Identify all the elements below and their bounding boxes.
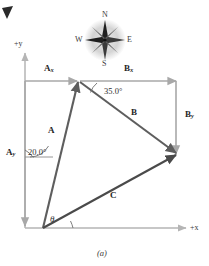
component-by-subscript: y: [191, 112, 194, 119]
vector-addition-figure: +y +x N S E W Ax Ay Bx By A B C 20.0° 35…: [0, 0, 209, 266]
compass-label-south: S: [102, 60, 106, 68]
compass-label-east: E: [127, 36, 132, 44]
y-axis-label: +y: [14, 40, 23, 48]
angle-theta-label: θ: [50, 215, 54, 224]
figure-caption: (a): [97, 249, 107, 258]
compass-label-west: W: [75, 36, 83, 44]
x-axis-label: +x: [190, 224, 199, 232]
component-ax-subscript: x: [51, 66, 54, 73]
vector-b-arrow: [80, 82, 176, 153]
vector-a-arrow: [43, 82, 78, 228]
vector-b-label: B: [131, 108, 137, 117]
angle-b-label: 35.0°: [104, 87, 122, 96]
compass-rose-icon: [84, 19, 126, 61]
component-ay-subscript: y: [13, 150, 16, 157]
vector-c-label: C: [110, 191, 117, 200]
corner-mark-icon: [2, 6, 13, 19]
angle-a-label: 20.0°: [28, 148, 46, 157]
component-bx-label: Bx: [124, 64, 133, 74]
figure-graphics: [0, 0, 209, 266]
component-ay-label: Ay: [6, 148, 15, 158]
component-ax-label: Ax: [44, 64, 54, 74]
vector-a-label: A: [48, 126, 55, 135]
angle-theta-arc: [71, 221, 74, 228]
compass-label-north: N: [102, 11, 108, 19]
component-bx-subscript: x: [130, 66, 133, 73]
component-by-label: By: [185, 110, 194, 120]
